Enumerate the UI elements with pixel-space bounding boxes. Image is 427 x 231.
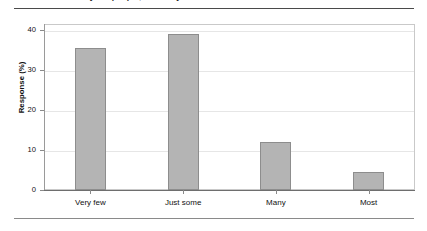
gridline [45,31,414,32]
y-tick-label: 10 [0,146,36,154]
bar [353,172,384,190]
chart-title-text: y the people, the many thousands are hos… [0,0,427,2]
y-tick-label: 20 [0,106,36,114]
x-tick-mark [183,190,184,194]
divider-bottom [14,218,414,219]
x-tick-label: Very few [40,198,140,208]
y-tick-mark [40,110,44,111]
y-tick-label: 30 [0,66,36,74]
y-tick-mark [40,30,44,31]
chart-title-clipped: y the people, the many thousands are hos… [0,0,427,5]
y-tick-mark [40,190,44,191]
y-axis-line [44,24,45,190]
x-tick-mark [369,190,370,194]
bar [168,34,199,190]
x-tick-mark [90,190,91,194]
x-tick-label: Many [226,198,326,208]
x-tick-label: Just some [133,198,233,208]
bar [260,142,291,190]
x-tick-mark [276,190,277,194]
x-tick-label: Most [319,198,419,208]
chart-figure: y the people, the many thousands are hos… [0,0,427,231]
y-tick-mark [40,70,44,71]
x-axis-line [44,190,415,191]
y-tick-mark [40,150,44,151]
bar [75,48,106,190]
y-tick-label: 0 [0,186,36,194]
y-axis-title: Response (%) [17,43,26,133]
y-tick-label: 40 [0,26,36,34]
divider-top [14,8,414,9]
